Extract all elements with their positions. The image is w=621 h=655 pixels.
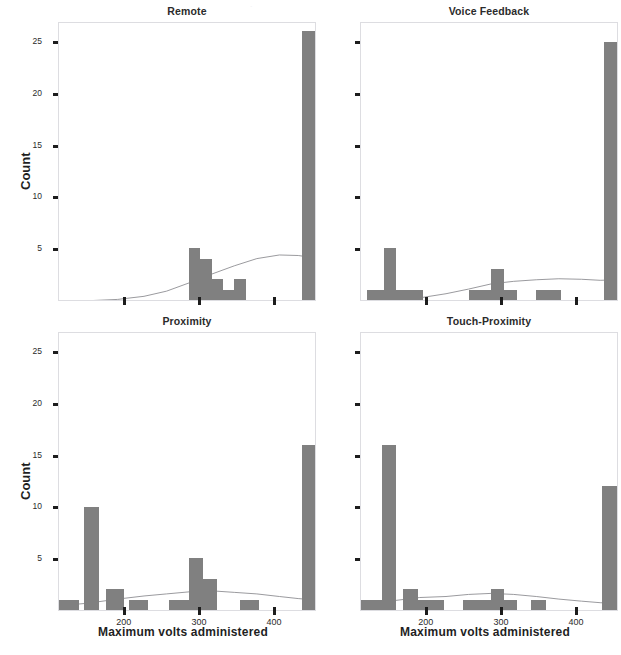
y-tick-label: 15	[33, 450, 42, 460]
plot-area-touch-proximity	[360, 332, 618, 611]
x-tick-mark	[123, 607, 126, 615]
panel-touch-proximity: Touch-Proximity 200300400	[302, 314, 621, 614]
panel-remote: Remote 510152025	[0, 4, 320, 304]
x-tick-mark	[575, 607, 578, 615]
y-tick-label: 15	[33, 140, 42, 150]
histogram-bar	[203, 579, 217, 610]
plot-area-remote	[58, 22, 316, 301]
plot-inner-remote	[59, 23, 315, 300]
y-tick-label: 25	[33, 346, 42, 356]
density-curve	[59, 23, 315, 300]
y-tick-label: 5	[37, 243, 42, 253]
plot-area-voice-feedback	[360, 22, 618, 301]
x-tick-label: 300	[182, 617, 216, 627]
histogram-bar	[189, 558, 203, 610]
y-tick-label: 20	[33, 398, 42, 408]
histogram-bar	[200, 259, 211, 300]
panel-voice-feedback: Voice Feedback	[302, 4, 621, 304]
x-tick-mark	[123, 297, 126, 305]
panel-proximity: Proximity 510152025 200300400	[0, 314, 320, 614]
x-axis-title-right: Maximum volts administered	[340, 625, 621, 639]
x-tick-mark	[575, 297, 578, 305]
panel-title-voice-feedback: Voice Feedback	[360, 4, 618, 18]
plot-inner-proximity	[59, 333, 315, 610]
x-tick-mark	[500, 297, 503, 305]
y-tick-label: 10	[33, 191, 42, 201]
density-curve	[361, 23, 617, 300]
x-tick-mark	[273, 297, 276, 305]
histogram-bar	[602, 486, 617, 610]
x-ticks-voice-feedback	[360, 297, 618, 307]
panel-title-touch-proximity: Touch-Proximity	[360, 314, 618, 328]
x-tick-mark	[500, 607, 503, 615]
x-ticks-remote	[58, 297, 316, 307]
plot-inner-voice-feedback	[361, 23, 617, 300]
histogram-figure: . Count Count Maximum volts administered…	[0, 0, 621, 655]
y-tick-label: 25	[33, 36, 42, 46]
histogram-bar	[491, 269, 504, 300]
plot-inner-touch-proximity	[361, 333, 617, 610]
x-tick-mark	[198, 297, 201, 305]
x-tick-label: 400	[257, 617, 291, 627]
panel-title-proximity: Proximity	[58, 314, 316, 328]
x-tick-mark	[425, 607, 428, 615]
histogram-bar	[189, 248, 200, 300]
y-tick-label: 5	[37, 553, 42, 563]
histogram-bar	[384, 248, 396, 300]
x-tick-mark	[425, 297, 428, 305]
histogram-bar	[604, 42, 617, 300]
histogram-bar	[382, 445, 396, 610]
x-ticks-proximity: 200300400	[58, 607, 316, 617]
y-tick-label: 20	[33, 88, 42, 98]
x-tick-label: 300	[484, 617, 518, 627]
y-tick-label: 10	[33, 501, 42, 511]
x-axis-title-left: Maximum volts administered	[38, 625, 328, 639]
x-tick-mark	[273, 607, 276, 615]
histogram-bar	[84, 507, 99, 610]
x-ticks-touch-proximity: 200300400	[360, 607, 618, 617]
x-tick-label: 200	[107, 617, 141, 627]
x-tick-label: 200	[409, 617, 443, 627]
plot-area-proximity	[58, 332, 316, 611]
x-tick-label: 400	[559, 617, 593, 627]
x-tick-mark	[198, 607, 201, 615]
density-curve	[361, 333, 617, 610]
panel-title-remote: Remote	[58, 4, 316, 18]
